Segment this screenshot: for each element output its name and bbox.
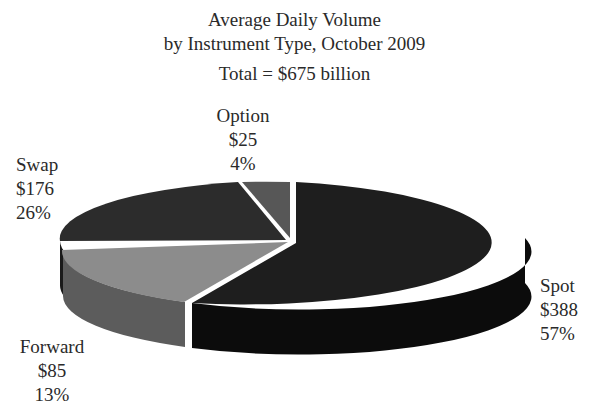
label-spot-name: Spot [540, 274, 578, 298]
label-forward: Forward $85 13% [18, 335, 86, 407]
label-forward-pct: 13% [18, 383, 86, 407]
label-option-name: Option [212, 104, 274, 128]
label-swap-value: $176 [16, 177, 58, 201]
label-spot-pct: 57% [540, 322, 578, 346]
label-forward-name: Forward [18, 335, 86, 359]
label-swap: Swap $176 26% [16, 153, 58, 225]
label-forward-value: $85 [18, 359, 86, 383]
label-spot-value: $388 [540, 298, 578, 322]
label-option-pct: 4% [212, 152, 274, 176]
label-option-value: $25 [212, 128, 274, 152]
label-swap-name: Swap [16, 153, 58, 177]
label-spot: Spot $388 57% [540, 274, 578, 346]
label-option: Option $25 4% [212, 104, 274, 176]
label-swap-pct: 26% [16, 201, 58, 225]
pie-chart [0, 0, 589, 412]
